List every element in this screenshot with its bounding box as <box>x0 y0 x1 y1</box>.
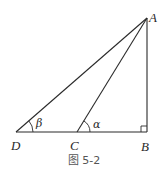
angle-label-alpha: α <box>93 118 101 131</box>
right-angle-marker <box>141 126 147 132</box>
angle-arc-beta <box>29 121 33 132</box>
figure-caption: 图 5-2 <box>68 154 100 167</box>
geometry-figure: A D C B β α 图 5-2 <box>0 0 168 175</box>
segment-AC <box>77 18 147 132</box>
point-label-A: A <box>148 10 157 25</box>
angle-label-beta: β <box>35 117 42 130</box>
angle-arc-alpha <box>84 121 90 132</box>
point-label-D: D <box>10 138 21 153</box>
point-label-C: C <box>70 138 79 153</box>
segment-AD <box>16 18 147 132</box>
point-label-B: B <box>141 139 149 154</box>
triangle-diagram: A D C B β α 图 5-2 <box>0 0 168 175</box>
